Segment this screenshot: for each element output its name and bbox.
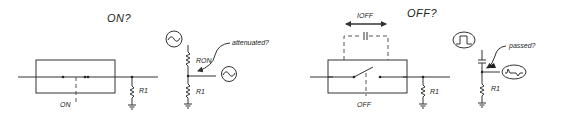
sine-wave-icon — [168, 37, 180, 42]
on-equivalent-circuit: RON R1 attenuated? — [166, 31, 269, 108]
r1-label: R1 — [196, 88, 205, 95]
analog-switch-diagram: ON? ON R1 — [0, 0, 569, 119]
on-contact-mid — [84, 76, 87, 79]
parasitic-capacitor — [344, 32, 388, 60]
off-annotation: passed? — [508, 42, 536, 50]
square-source-circle — [453, 32, 475, 48]
off-contact-right — [379, 76, 382, 79]
r1-resistor — [480, 84, 484, 96]
on-load-resistor — [128, 77, 136, 109]
on-contact-left — [62, 76, 65, 79]
ron-resistor — [186, 52, 190, 66]
square-pulse-icon — [456, 36, 472, 44]
off-equivalent-circuit: R1 passed? — [453, 32, 536, 107]
on-contact-right — [87, 76, 90, 79]
ioff-label: IOFF — [357, 12, 374, 19]
off-load-label: R1 — [430, 88, 439, 95]
sine-wave-icon — [223, 72, 235, 77]
on-annotation: attenuated? — [232, 39, 269, 46]
output-circle — [502, 65, 526, 79]
on-panel: ON? ON R1 — [18, 12, 269, 109]
ron-label: RON — [196, 57, 213, 64]
off-load-resistor — [419, 77, 427, 108]
annotation-arrow — [487, 46, 506, 68]
off-state-label: OFF — [357, 101, 372, 108]
off-r1-label: R1 — [491, 85, 500, 92]
on-state-label: ON — [60, 101, 71, 108]
off-panel: OFF? IOFF OFF — [310, 7, 536, 108]
r1-resistor — [186, 84, 190, 98]
on-load-label: R1 — [139, 87, 148, 94]
on-title: ON? — [107, 12, 132, 24]
spike-wave-icon — [505, 69, 523, 76]
off-title: OFF? — [407, 7, 437, 19]
